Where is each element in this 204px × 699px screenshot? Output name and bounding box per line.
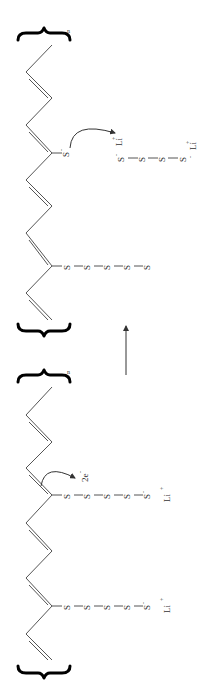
repeat-brace-top — [18, 370, 70, 382]
svg-text:+: + — [159, 486, 165, 490]
svg-text:S: S — [62, 494, 72, 499]
thiolate-s: S — [61, 152, 71, 157]
repeat-subscript: n — [67, 369, 70, 375]
svg-text:S: S — [82, 265, 92, 270]
reaction-diagram: n S - S S S S S S - — [0, 0, 204, 699]
svg-text:S: S — [62, 605, 72, 610]
svg-text:S: S — [122, 605, 132, 610]
repeat-brace-bottom — [18, 666, 70, 678]
bound-polysulfide-chain: S S S S S — [52, 265, 152, 270]
double-bond — [29, 79, 48, 98]
svg-text:S: S — [62, 265, 72, 270]
svg-text:S: S — [102, 494, 112, 499]
repeat-brace-bottom — [18, 324, 70, 336]
svg-text:Li: Li — [162, 605, 172, 613]
svg-text:S: S — [122, 494, 132, 499]
repeat-subscript: n — [67, 28, 70, 34]
svg-text:S: S — [82, 494, 92, 499]
product-structure: n S - S S S S S S - — [18, 28, 198, 336]
double-bond — [29, 422, 48, 441]
svg-text:S: S — [137, 157, 147, 162]
svg-text:+: + — [185, 140, 191, 144]
released-polysulfide: S - Li + S S S - Li + — [111, 136, 198, 162]
svg-text:S: S — [157, 157, 167, 162]
reactant-structure: n 2e - S S S S S - Li + S — [18, 369, 172, 678]
electron-charge: - — [77, 471, 83, 473]
polysulfide-chain: S S S S S - Li + — [52, 597, 172, 613]
svg-text:S: S — [122, 265, 132, 270]
polyene-backbone — [26, 387, 52, 660]
svg-text:Li: Li — [162, 494, 172, 502]
repeat-brace-top — [18, 28, 70, 40]
double-bond — [29, 240, 48, 265]
double-bond — [29, 475, 48, 494]
electron-arrow — [41, 472, 75, 486]
svg-text:S: S — [142, 265, 152, 270]
double-bond — [29, 641, 48, 660]
svg-text:-: - — [187, 156, 193, 158]
svg-text:+: + — [159, 597, 165, 601]
electron-label: 2e — [80, 474, 90, 483]
polyene-backbone — [26, 45, 52, 320]
svg-text:S: S — [116, 157, 126, 162]
svg-text:S: S — [142, 605, 152, 610]
svg-text:S: S — [142, 494, 152, 499]
double-bond — [29, 300, 48, 320]
double-bond — [29, 187, 48, 206]
double-bond — [29, 585, 48, 605]
svg-text:S: S — [82, 605, 92, 610]
svg-text:-: - — [140, 491, 146, 493]
double-bond — [29, 132, 48, 152]
curved-arrow — [70, 129, 115, 148]
polysulfide-chain: S S S S S - Li + — [52, 486, 172, 502]
svg-text:+: + — [111, 136, 117, 140]
svg-text:-: - — [113, 154, 119, 156]
svg-text:S: S — [102, 265, 112, 270]
double-bond — [29, 530, 48, 550]
svg-text:-: - — [140, 602, 146, 604]
thiolate-charge: - — [58, 149, 64, 151]
svg-text:S: S — [102, 605, 112, 610]
